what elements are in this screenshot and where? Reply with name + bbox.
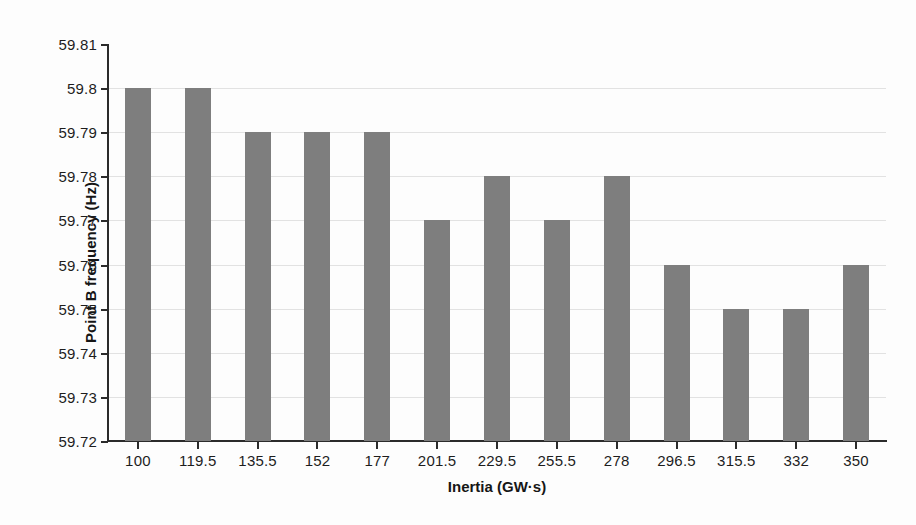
- x-axis-tick: [197, 442, 199, 449]
- bar: [604, 176, 630, 441]
- x-axis-tick-label: 177: [364, 452, 390, 469]
- bar: [364, 132, 390, 441]
- x-axis-title: Inertia (GW·s): [108, 478, 886, 495]
- x-axis-tick: [376, 442, 378, 449]
- bar: [484, 176, 510, 441]
- x-axis-tick-label: 255.5: [538, 452, 577, 469]
- y-axis-tick: [101, 309, 108, 311]
- x-axis-tick: [855, 442, 857, 449]
- x-axis-tick: [795, 442, 797, 449]
- x-axis-tick: [316, 442, 318, 449]
- bar: [125, 88, 151, 441]
- chart-figure: Point B frequency (Hz) 59.8159.859.7959.…: [0, 0, 916, 525]
- y-axis-tick-label: 59.79: [5, 124, 97, 141]
- x-axis-tick-label: 152: [305, 452, 331, 469]
- y-axis-tick-label: 59.8: [5, 80, 97, 97]
- x-axis-tick: [616, 442, 618, 449]
- x-axis-tick: [556, 442, 558, 449]
- x-axis-tick: [735, 442, 737, 449]
- y-axis-tick-label: 59.77: [5, 212, 97, 229]
- bar: [783, 309, 809, 441]
- x-axis-tick-label: 201.5: [418, 452, 457, 469]
- bar: [544, 220, 570, 441]
- x-axis-tick-label: 332: [783, 452, 809, 469]
- y-axis-tick: [101, 265, 108, 267]
- y-axis-tick: [101, 88, 108, 90]
- bar: [723, 309, 749, 441]
- x-axis-tick-label: 296.5: [657, 452, 696, 469]
- bar: [424, 220, 450, 441]
- y-axis-tick: [101, 176, 108, 178]
- y-axis-tick-label: 59.73: [5, 388, 97, 405]
- x-axis-tick-label: 278: [604, 452, 630, 469]
- y-axis-tick-label: 59.72: [5, 433, 97, 450]
- bar: [245, 132, 271, 441]
- x-axis-tick: [676, 442, 678, 449]
- y-axis-tick: [101, 441, 108, 443]
- x-axis-tick-label: 350: [843, 452, 869, 469]
- x-axis-tick-label: 229.5: [478, 452, 517, 469]
- y-axis-tick: [101, 220, 108, 222]
- x-axis-tick: [436, 442, 438, 449]
- x-axis-tick-label: 119.5: [179, 452, 216, 469]
- bar-series: [108, 44, 886, 441]
- y-axis-tick-label: 59.81: [5, 36, 97, 53]
- x-axis-tick-label: 315.5: [717, 452, 756, 469]
- bar: [843, 265, 869, 441]
- bar: [185, 88, 211, 441]
- y-axis-tick-label: 59.74: [5, 344, 97, 361]
- y-axis-tick: [101, 132, 108, 134]
- bar: [304, 132, 330, 441]
- bar: [664, 265, 690, 441]
- x-axis-tick-label: 135.5: [238, 452, 277, 469]
- x-axis-tick: [137, 442, 139, 449]
- y-axis-tick-label: 59.78: [5, 168, 97, 185]
- y-axis-tick-label: 59.75: [5, 300, 97, 317]
- x-axis-tick: [257, 442, 259, 449]
- y-axis-tick-label: 59.76: [5, 256, 97, 273]
- y-axis-tick: [101, 397, 108, 399]
- x-axis-tick: [496, 442, 498, 449]
- y-axis-tick-labels: 59.8159.859.7959.7859.7759.7659.7559.745…: [0, 0, 97, 525]
- x-axis-tick-label: 100: [125, 452, 151, 469]
- y-axis-tick: [101, 44, 108, 46]
- y-axis-tick: [101, 353, 108, 355]
